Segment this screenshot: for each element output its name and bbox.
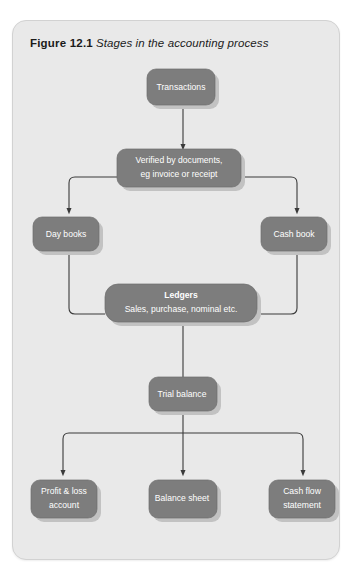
node-verified-label-line2: eg invoice or receipt <box>141 169 219 179</box>
node-transactions[interactable]: Transactions <box>147 69 219 109</box>
node-balance-sheet-label: Balance sheet <box>155 493 210 503</box>
node-cash-book-label: Cash book <box>273 229 315 239</box>
node-profit-loss-account[interactable]: Profit & loss account <box>31 480 101 522</box>
edge-day-books-to-ledgers <box>69 253 105 314</box>
edge-bus-to-cash-flow <box>183 433 303 473</box>
node-verified-by-documents[interactable]: Verified by documents, eg invoice or rec… <box>117 149 245 191</box>
node-cash-flow-label-line2: statement <box>283 500 321 510</box>
figure-card: Figure 12.1Stages in the accounting proc… <box>12 20 340 560</box>
node-trial-balance[interactable]: Trial balance <box>149 377 221 415</box>
edge-cash-book-to-ledgers <box>261 253 297 314</box>
node-cash-flow-label-line1: Cash flow <box>283 486 322 496</box>
node-day-books[interactable]: Day books <box>33 217 103 255</box>
node-profit-loss-label-line1: Profit & loss <box>41 486 87 496</box>
node-transactions-label: Transactions <box>157 82 206 92</box>
node-cash-book[interactable]: Cash book <box>261 217 331 255</box>
node-ledgers[interactable]: Ledgers Sales, purchase, nominal etc. <box>105 284 261 326</box>
node-profit-loss-label-line2: account <box>49 500 80 510</box>
node-balance-sheet[interactable]: Balance sheet <box>149 480 221 522</box>
node-ledgers-label-line1: Ledgers <box>164 290 198 300</box>
node-day-books-label: Day books <box>46 229 87 239</box>
edge-bus-to-profit-loss <box>63 433 183 473</box>
node-ledgers-label-line2: Sales, purchase, nominal etc. <box>125 304 238 314</box>
node-cash-flow-statement[interactable]: Cash flow statement <box>269 480 339 522</box>
node-verified-label-line1: Verified by documents, <box>136 155 223 165</box>
node-trial-balance-label: Trial balance <box>158 389 207 399</box>
accounting-process-flowchart: Transactions Verified by documents, eg i… <box>13 21 341 561</box>
